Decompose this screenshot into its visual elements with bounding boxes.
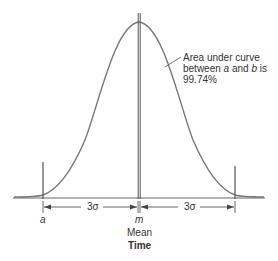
bell-curve: [14, 22, 264, 197]
annotation-text: Area under curve between a and b is 99.7…: [183, 52, 267, 85]
axis-label-time: Time: [128, 240, 151, 251]
label-mean: Mean: [127, 227, 152, 238]
left-span-label: 3σ: [85, 201, 101, 212]
annotation-line2: between a and b is: [183, 63, 267, 74]
annotation-text-part: between: [183, 63, 224, 74]
annotation-text-part: and: [229, 63, 251, 74]
label-a: a: [40, 214, 46, 225]
annotation-line1: Area under curve: [183, 52, 267, 63]
annotation-text-part: is: [257, 63, 267, 74]
label-m: m: [135, 214, 143, 225]
dimension-arrows: [43, 201, 235, 213]
right-span-label: 3σ: [182, 201, 198, 212]
annotation-line3: 99.74%: [183, 74, 267, 85]
